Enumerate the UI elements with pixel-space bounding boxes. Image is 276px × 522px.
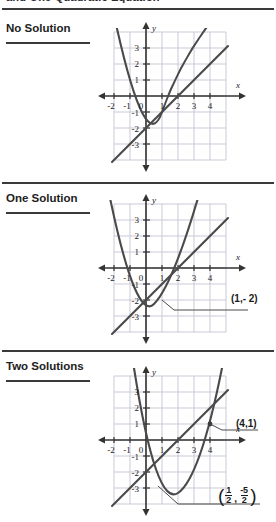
axis-lines-2 bbox=[100, 196, 244, 342]
callout-two-solutions-point-upper: (4,1) bbox=[236, 418, 257, 429]
svg-text:3: 3 bbox=[135, 43, 140, 53]
svg-text:1: 1 bbox=[135, 247, 140, 257]
section-underline-1 bbox=[6, 42, 90, 44]
svg-text:1: 1 bbox=[160, 273, 165, 283]
svg-text:2: 2 bbox=[135, 59, 140, 69]
svg-text:-3: -3 bbox=[132, 312, 140, 322]
svg-text:4: 4 bbox=[208, 273, 213, 283]
svg-text:4: 4 bbox=[208, 101, 213, 111]
graph-svg-1: -2 -1 0 1 2 3 4 3 2 1 -1 -2 -3 x y bbox=[98, 18, 276, 176]
fraction-x-denominator: 2 bbox=[225, 495, 232, 505]
section-label-two-solutions: Two Solutions bbox=[6, 360, 84, 372]
svg-text:-2: -2 bbox=[132, 296, 140, 306]
fraction-x: 1 2 bbox=[225, 486, 232, 505]
svg-text:0: 0 bbox=[139, 273, 144, 283]
svg-text:2: 2 bbox=[176, 101, 181, 111]
svg-text:2: 2 bbox=[135, 231, 140, 241]
svg-text:-1: -1 bbox=[132, 452, 140, 462]
fraction-x-numerator: 1 bbox=[225, 486, 232, 495]
svg-text:y: y bbox=[151, 23, 156, 33]
worksheet-page: and One Quadratic Equation No Solution bbox=[0, 0, 276, 522]
svg-text:y: y bbox=[151, 367, 156, 377]
svg-text:3: 3 bbox=[192, 101, 197, 111]
svg-text:1: 1 bbox=[135, 419, 140, 429]
callout-two-solutions-point-lower: ( 1 2 , -5 2 ) bbox=[218, 486, 256, 505]
svg-text:-1: -1 bbox=[123, 101, 131, 111]
fraction-y-denominator: 2 bbox=[241, 495, 248, 505]
svg-text:0: 0 bbox=[139, 101, 144, 111]
graph-one-solution: -2 -1 0 1 2 3 4 3 2 1 -1 -2 -3 x y bbox=[98, 190, 276, 348]
svg-text:3: 3 bbox=[135, 215, 140, 225]
section-label-no-solution: No Solution bbox=[6, 22, 71, 34]
section-underline-2 bbox=[6, 212, 90, 214]
fraction-y-numerator: -5 bbox=[239, 486, 249, 495]
svg-text:-1: -1 bbox=[132, 108, 140, 118]
svg-text:1: 1 bbox=[135, 75, 140, 85]
clipped-heading: and One Quadratic Equation bbox=[0, 0, 276, 7]
svg-text:-2: -2 bbox=[132, 468, 140, 478]
paren-open: ( bbox=[218, 486, 224, 505]
paren-close: ) bbox=[250, 486, 256, 505]
svg-text:-3: -3 bbox=[132, 484, 140, 494]
svg-text:2: 2 bbox=[176, 445, 181, 455]
svg-text:1: 1 bbox=[160, 101, 165, 111]
callout-one-solution-point: (1,- 2) bbox=[231, 293, 258, 304]
svg-text:-2: -2 bbox=[107, 101, 115, 111]
svg-text:4: 4 bbox=[208, 445, 213, 455]
svg-text:0: 0 bbox=[139, 445, 144, 455]
svg-text:2: 2 bbox=[176, 273, 181, 283]
fraction-y: -5 2 bbox=[239, 486, 249, 505]
svg-text:y: y bbox=[151, 195, 156, 205]
svg-text:3: 3 bbox=[135, 387, 140, 397]
svg-text:3: 3 bbox=[192, 273, 197, 283]
section-underline-3 bbox=[6, 380, 90, 382]
section-rule-2 bbox=[2, 350, 274, 352]
coordinate-comma: , bbox=[234, 493, 237, 505]
svg-text:2: 2 bbox=[135, 403, 140, 413]
graph-no-solution: -2 -1 0 1 2 3 4 3 2 1 -1 -2 -3 x y bbox=[98, 18, 276, 176]
svg-text:-2: -2 bbox=[107, 273, 115, 283]
svg-text:x: x bbox=[235, 80, 240, 90]
graph-svg-2: -2 -1 0 1 2 3 4 3 2 1 -1 -2 -3 x y bbox=[98, 190, 276, 348]
axis-arrows-2 bbox=[98, 194, 246, 344]
svg-text:-1: -1 bbox=[123, 445, 131, 455]
svg-text:1: 1 bbox=[160, 445, 165, 455]
header-rule bbox=[2, 8, 274, 10]
section-label-one-solution: One Solution bbox=[6, 192, 78, 204]
svg-text:-1: -1 bbox=[132, 280, 140, 290]
svg-text:-2: -2 bbox=[132, 124, 140, 134]
svg-text:3: 3 bbox=[192, 445, 197, 455]
svg-text:-2: -2 bbox=[107, 445, 115, 455]
svg-text:x: x bbox=[235, 252, 240, 262]
svg-text:-1: -1 bbox=[123, 273, 131, 283]
svg-text:-3: -3 bbox=[132, 140, 140, 150]
clipped-heading-text: and One Quadratic Equation bbox=[6, 0, 160, 3]
section-rule-1 bbox=[2, 182, 274, 184]
